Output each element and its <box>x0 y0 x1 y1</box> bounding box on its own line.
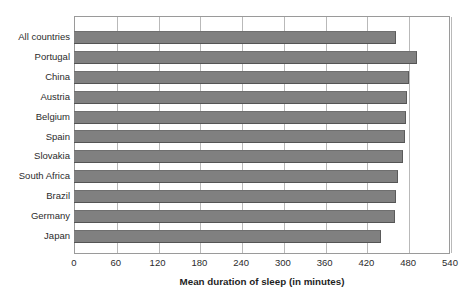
bar-row <box>74 126 405 148</box>
category-label: Spain <box>0 131 70 142</box>
x-tick-label: 420 <box>359 257 375 268</box>
x-axis-tick-labels: 060120180240300360420480540 <box>74 257 450 271</box>
bar-row <box>74 47 417 69</box>
bar <box>74 190 396 203</box>
category-axis-labels: All countriesPortugalChinaAustriaBelgium… <box>0 16 70 254</box>
x-tick-label: 360 <box>317 257 333 268</box>
gridline-540 <box>451 17 452 253</box>
bar-row <box>74 166 398 188</box>
category-label: Portugal <box>0 51 70 62</box>
x-tick-label: 540 <box>442 257 458 268</box>
x-tick-label: 180 <box>191 257 207 268</box>
category-label: All countries <box>0 31 70 42</box>
bar-row <box>74 146 403 168</box>
bars-layer <box>74 16 450 254</box>
x-tick-label: 240 <box>233 257 249 268</box>
category-label: China <box>0 71 70 82</box>
bar <box>74 150 403 163</box>
bar <box>74 111 406 124</box>
bar <box>74 71 409 84</box>
bar <box>74 210 395 223</box>
category-label: Austria <box>0 91 70 102</box>
x-axis-title: Mean duration of sleep (in minutes) <box>74 276 450 287</box>
category-label: Japan <box>0 230 70 241</box>
bar-row <box>74 225 381 247</box>
category-label: Belgium <box>0 111 70 122</box>
bar-row <box>74 205 395 227</box>
x-tick-label: 60 <box>110 257 121 268</box>
category-label: Brazil <box>0 190 70 201</box>
bar-chart: All countriesPortugalChinaAustriaBelgium… <box>0 0 473 305</box>
bar <box>74 51 417 64</box>
x-tick-label: 480 <box>400 257 416 268</box>
bar <box>74 230 381 243</box>
bar <box>74 31 396 44</box>
bar <box>74 91 407 104</box>
bar-row <box>74 86 407 108</box>
x-tick-label: 300 <box>275 257 291 268</box>
category-label: South Africa <box>0 170 70 181</box>
x-tick-label: 0 <box>71 257 76 268</box>
category-label: Slovakia <box>0 150 70 161</box>
bar-row <box>74 186 396 208</box>
x-tick-label: 120 <box>150 257 166 268</box>
bar <box>74 130 405 143</box>
bar-row <box>74 27 396 49</box>
bar <box>74 170 398 183</box>
bar-row <box>74 67 409 89</box>
category-label: Germany <box>0 210 70 221</box>
bar-row <box>74 106 406 128</box>
